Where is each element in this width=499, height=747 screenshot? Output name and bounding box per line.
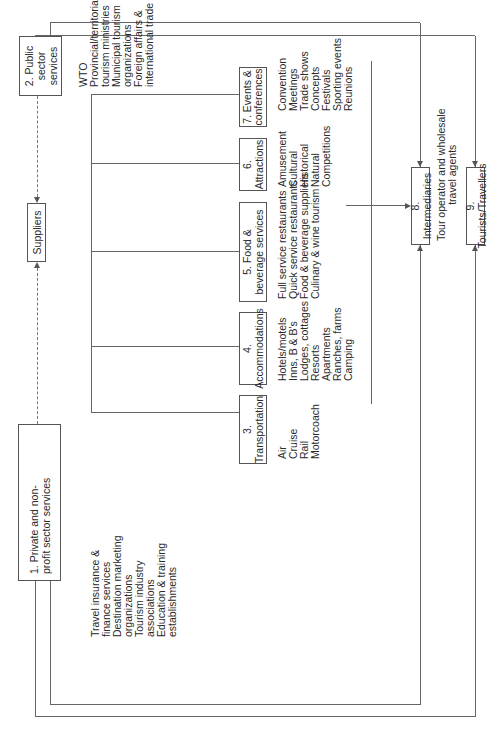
attractions-box[interactable]: 6. Attractions [239,138,267,191]
food-beverage-label: 5. Food & beverage services [241,207,265,297]
inner-frame-bottom [420,245,421,705]
dashed-arrow-to-suppliers-left [34,262,40,268]
bracket-to-events [91,94,239,95]
private-sector-label: 1. Private and non-profit sector service… [28,464,52,574]
private-sector-list: Travel insurance & finance services Dest… [90,535,178,637]
list-item: travel agents [447,108,458,241]
intermediaries-box[interactable]: 8. Intermediaries [411,167,430,245]
food-beverage-list: Full service restaurants Quick service r… [277,174,321,300]
accommodations-list: Hotels/motels Inns, B & B's Lodges, cott… [277,301,354,381]
list-item: establishments [167,535,178,637]
bracket-to-food [91,251,239,252]
tourism-system-diagram: 1. Private and non-profit sector service… [0,0,499,747]
public-sector-box[interactable]: 2. Public sector services [19,36,62,96]
tourists-box[interactable]: 9. Tourists/Travellers [466,167,485,245]
events-conferences-box[interactable]: 7. Events & conferences [239,67,267,127]
inner-frame-top-right [420,23,421,167]
accommodations-label: 4. Accommodations [241,308,265,389]
inner-frame-left [50,704,420,705]
private-to-inner-frame [50,581,51,705]
dashed-link-public-suppliers [37,96,38,197]
outer-frame-top-right [475,36,476,167]
attractions-label: 6. Attractions [241,140,265,190]
suppliers-to-intermediaries [346,205,409,206]
private-sector-box[interactable]: 1. Private and non-profit sector service… [18,424,61,581]
list-item: Culinary & wine tourism [310,174,321,300]
list-item: Camping [343,301,354,381]
events-conferences-list: Convention Meetings Trade shows Concepts… [277,38,354,111]
arrow-to-intermediaries-from-private [417,245,423,251]
public-sector-label: 2. Public sector services [23,41,59,91]
list-item: Motorcoach [310,404,321,459]
bracket-to-accommodations [91,346,239,347]
intermediaries-label: 8. Intermediaries [409,172,433,240]
list-item: international trade [144,0,155,87]
suppliers-label: Suppliers [31,211,43,255]
transportation-list: Air Cruise Rail Motorcoach [277,404,321,459]
transportation-label: 3. Transportation [241,396,265,463]
food-beverage-box[interactable]: 5. Food & beverage services [239,202,267,302]
dashed-link-private-suppliers [37,268,38,424]
attractions-list: Amusement Cultural Historical Natural Co… [277,126,332,187]
suppliers-box[interactable]: Suppliers [27,203,46,262]
outer-frame-bottom [475,244,476,717]
events-conferences-label: 7. Events & conferences [242,68,264,125]
public-sector-list: WTO Provincial/territorial tourism minis… [78,0,155,87]
suppliers-output-spine [371,61,372,404]
public-to-inner-frame [50,23,51,37]
accommodations-box[interactable]: 4. Accommodations [239,312,267,385]
transportation-box[interactable]: 3. Transportation [239,395,267,464]
tourists-label: 9. Tourists/Travellers [464,164,488,249]
outer-frame-left [35,716,475,717]
bracket-to-transportation [91,412,239,413]
private-to-frame-outer [35,581,36,717]
bracket-to-attractions [91,163,239,164]
dashed-arrow-to-suppliers-right [34,197,40,203]
list-item: Reunions [343,38,354,111]
list-item: Competitions [321,126,332,187]
supplier-bracket-spine [91,95,92,413]
intermediaries-list: Tour operator and wholesale travel agent… [436,108,458,241]
